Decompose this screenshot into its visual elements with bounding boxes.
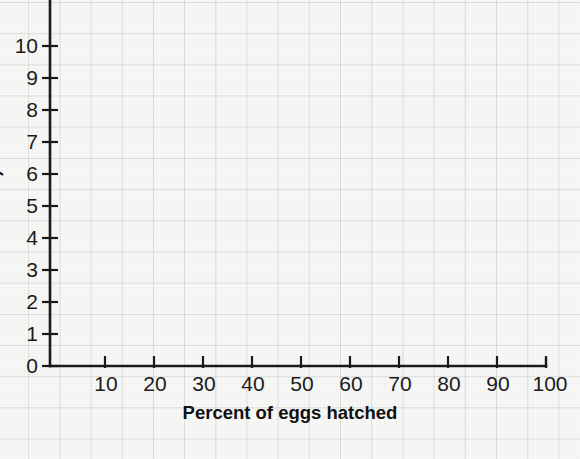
x-tick-label-40: 40 <box>241 372 264 395</box>
coordinate-plot: 0 1 2 3 4 5 6 7 8 9 10 10 20 <box>0 0 580 459</box>
x-tick-label-70: 70 <box>388 372 411 395</box>
y-tick-label-6: 6 <box>26 162 38 185</box>
y-tick-label-5: 5 <box>26 194 38 217</box>
y-tick-label-4: 4 <box>26 226 38 249</box>
y-tick-label-1: 1 <box>26 322 38 345</box>
y-tick-label-9: 9 <box>26 66 38 89</box>
y-tick-label-2: 2 <box>26 290 38 313</box>
graph-worksheet-screenshot: 0 1 2 3 4 5 6 7 8 9 10 10 20 <box>0 0 580 459</box>
y-tick-label-7: 7 <box>26 130 38 153</box>
x-tick-label-10: 10 <box>94 372 117 395</box>
x-tick-label-90: 90 <box>486 372 509 395</box>
x-tick-label-100: 100 <box>532 372 567 395</box>
x-tick-label-60: 60 <box>339 372 362 395</box>
y-tick-label-3: 3 <box>26 258 38 281</box>
y-tick-label-0: 0 <box>26 354 38 377</box>
x-tick-label-20: 20 <box>143 372 166 395</box>
y-tick-label-10: 10 <box>15 34 38 57</box>
x-axis-title: Percent of eggs hatched <box>183 402 398 423</box>
y-axis-tick-labels: 0 1 2 3 4 5 6 7 8 9 10 <box>15 34 39 377</box>
x-tick-label-30: 30 <box>192 372 215 395</box>
x-axis-tick-labels: 10 20 30 40 50 60 70 80 90 100 <box>94 372 567 395</box>
x-tick-label-80: 80 <box>437 372 460 395</box>
y-axis-title: ) <box>0 170 3 176</box>
y-tick-label-8: 8 <box>26 98 38 121</box>
x-tick-label-50: 50 <box>290 372 313 395</box>
